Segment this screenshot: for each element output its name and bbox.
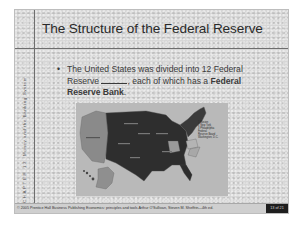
slide-title: The Structure of the Federal Reserve [42, 21, 263, 36]
vertical-divider [34, 10, 35, 205]
map-legend: 1 Boston 2 New York 3 Philadelphia Feder… [198, 121, 230, 140]
federal-reserve-districts-map: 1 Boston 2 New York 3 Philadelphia Feder… [76, 103, 228, 196]
us-map-icon [76, 103, 228, 196]
slide-footer: © 2005 Prentice Hall Business Publishing… [15, 203, 288, 213]
bullet-text: The United States was divided into 12 Fe… [67, 64, 267, 98]
slide: The Structure of the Federal Reserve CHA… [15, 10, 288, 213]
title-divider [15, 48, 288, 49]
fill-in-blank [101, 75, 127, 84]
side-label: CHAPTER 13 Money and the Banking System [18, 53, 30, 203]
slide-number: 13 of 21 [266, 204, 288, 213]
copyright-text: © 2005 Prentice Hall Business Publishing… [17, 206, 213, 210]
topic-label: Money and the Banking System [22, 77, 27, 156]
bullet-text-end: . [124, 87, 126, 97]
legend-item: Washington, D.C. [198, 136, 230, 139]
chapter-label: CHAPTER 13 [22, 160, 27, 203]
bullet-text-part2: , each of which has a [127, 76, 210, 86]
bullet-icon: • [57, 64, 60, 75]
